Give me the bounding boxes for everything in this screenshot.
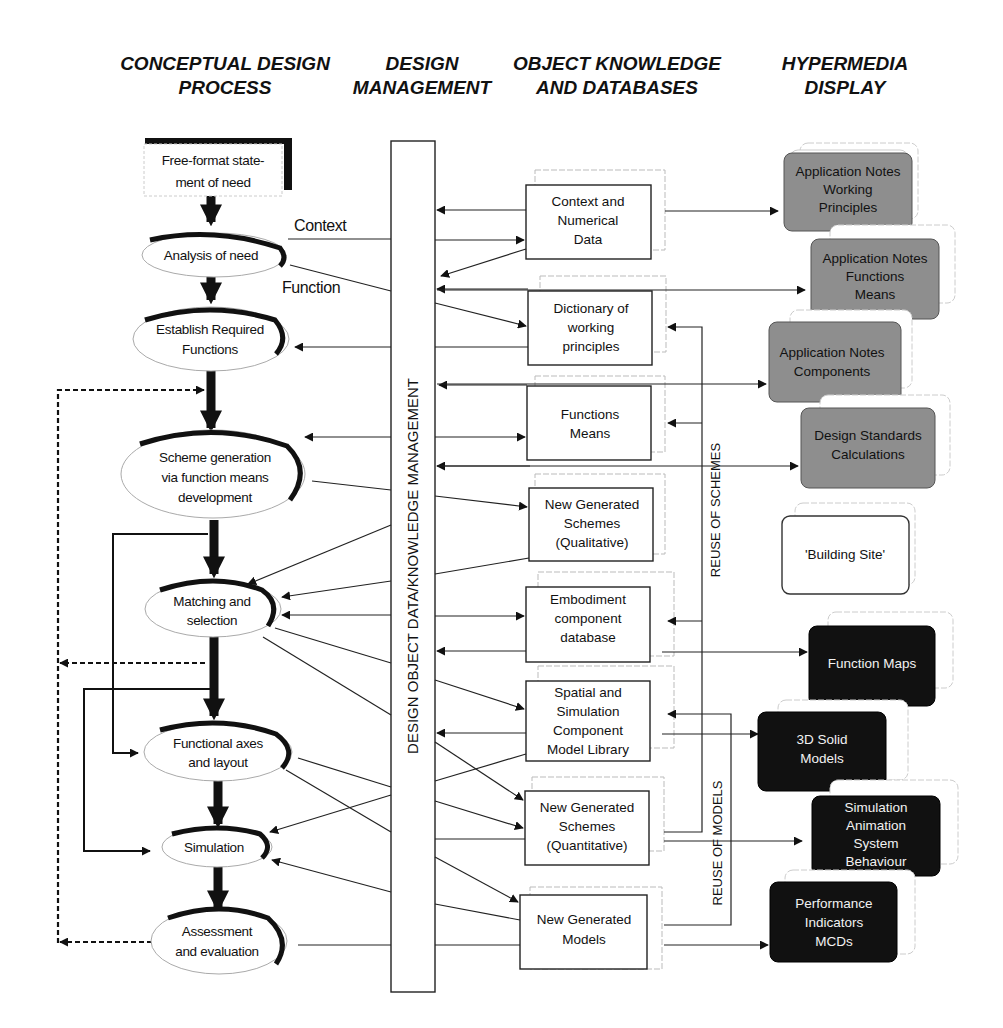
step-label-scheme-1: Scheme generation [159, 450, 271, 465]
step-label-analysis: Analysis of need [164, 248, 258, 263]
svg-text:Function Maps: Function Maps [828, 656, 917, 671]
process-step-matching: Matching and selection [145, 581, 281, 637]
step-label-assessment-1: Assessment [182, 924, 253, 939]
svg-text:Application Notes: Application Notes [779, 345, 884, 360]
svg-text:Simulation: Simulation [844, 800, 907, 815]
svg-text:Models: Models [562, 932, 606, 947]
db-new-schemes-quantitative: New Generated Schemes (Quantitative) [525, 777, 664, 865]
column-headers: CONCEPTUAL DESIGN PROCESS DESIGN MANAGEM… [120, 53, 908, 98]
svg-text:Dictionary of: Dictionary of [553, 301, 628, 316]
header-hypermedia-line2: DISPLAY [805, 77, 888, 98]
svg-text:Functions: Functions [561, 407, 620, 422]
svg-text:Means: Means [570, 426, 611, 441]
svg-text:(Quantitative): (Quantitative) [546, 838, 627, 853]
db-new-schemes-qualitative: New Generated Schemes (Qualitative) [529, 474, 665, 561]
header-conceptual-design-line1: CONCEPTUAL DESIGN [120, 53, 331, 74]
svg-text:Model Library: Model Library [547, 742, 629, 757]
step-label-establish-2: Functions [182, 342, 238, 357]
card-application-notes-components[interactable]: Application Notes Components [769, 310, 912, 402]
svg-text:Components: Components [794, 364, 871, 379]
step-label-simulation: Simulation [184, 840, 244, 855]
process-step-establish: Establish Required Functions [133, 307, 289, 371]
step-label-functional-2: and layout [188, 755, 248, 770]
svg-text:'Building Site': 'Building Site' [805, 547, 885, 562]
svg-text:3D Solid: 3D Solid [796, 732, 847, 747]
header-object-knowledge-line1: OBJECT KNOWLEDGE [513, 53, 722, 74]
svg-text:Numerical: Numerical [558, 213, 619, 228]
svg-text:principles: principles [562, 339, 619, 354]
svg-text:Context and: Context and [552, 194, 625, 209]
header-design-management-line1: DESIGN [386, 53, 460, 74]
svg-text:MCDs: MCDs [815, 934, 853, 949]
svg-text:Calculations: Calculations [831, 447, 905, 462]
db-functions-means: Functions Means [527, 376, 665, 460]
svg-text:New Generated: New Generated [545, 497, 640, 512]
card-simulation-animation[interactable]: Simulation Animation System Behaviour [812, 780, 958, 876]
edge-label-function: Function [282, 279, 340, 296]
svg-text:Performance: Performance [795, 896, 872, 911]
card-building-site[interactable]: 'Building Site' [782, 503, 915, 594]
svg-text:Embodiment: Embodiment [550, 592, 626, 607]
svg-text:Principles: Principles [819, 200, 878, 215]
db-embodiment-component: Embodiment component database [526, 572, 674, 662]
svg-text:Working: Working [823, 182, 872, 197]
svg-text:Component: Component [553, 723, 623, 738]
svg-text:Design Standards: Design Standards [814, 428, 922, 443]
step-label-establish-1: Establish Required [156, 322, 264, 337]
design-framework-diagram: CONCEPTUAL DESIGN PROCESS DESIGN MANAGEM… [0, 0, 1003, 1028]
svg-text:Indicators: Indicators [805, 915, 864, 930]
svg-text:Animation: Animation [846, 818, 906, 833]
edge-label-context: Context [294, 217, 347, 234]
svg-text:Behaviour: Behaviour [846, 854, 907, 869]
svg-text:Application Notes: Application Notes [822, 251, 927, 266]
header-design-management-line2: MANAGEMENT [353, 77, 493, 98]
step-label-assessment-2: and evaluation [175, 944, 259, 959]
step-label-functional-1: Functional axes [173, 736, 264, 751]
need-statement-line2: ment of need [175, 175, 250, 190]
svg-text:working: working [567, 320, 615, 335]
svg-text:System: System [853, 836, 898, 851]
process-step-assessment: Assessment and evaluation [151, 908, 287, 974]
svg-text:Models: Models [800, 751, 844, 766]
svg-text:Schemes: Schemes [564, 516, 621, 531]
svg-text:New Generated: New Generated [537, 912, 632, 927]
card-design-standards[interactable]: Design Standards Calculations [801, 395, 950, 488]
need-statement-box: Free-format state- ment of need [144, 138, 292, 196]
step-label-matching-1: Matching and [173, 594, 250, 609]
management-to-database-links [435, 210, 530, 945]
process-step-simulation: Simulation [162, 827, 272, 867]
svg-text:Schemes: Schemes [559, 819, 616, 834]
card-3d-solid-models[interactable]: 3D Solid Models [758, 700, 908, 791]
svg-text:Simulation: Simulation [556, 704, 619, 719]
header-conceptual-design-line2: PROCESS [179, 77, 272, 98]
need-statement-line1: Free-format state- [162, 153, 265, 168]
card-application-notes-working[interactable]: Application Notes Working Principles [784, 143, 918, 231]
svg-text:(Qualitative): (Qualitative) [556, 535, 629, 550]
management-bar-label: DESIGN OBJECT DATA/KNOWLEDGE MANAGEMENT [404, 378, 421, 754]
process-step-functional: Functional axes and layout [144, 723, 292, 781]
step-label-scheme-3: development [178, 490, 253, 505]
step-label-matching-2: selection [187, 613, 238, 628]
process-flow-arrows [211, 196, 218, 908]
card-function-maps[interactable]: Function Maps [809, 612, 953, 706]
hypermedia-cards: Application Notes Working Principles App… [758, 143, 958, 962]
svg-text:Spatial and: Spatial and [554, 685, 622, 700]
card-performance-indicators[interactable]: Performance Indicators MCDs [770, 870, 915, 962]
svg-text:Data: Data [574, 232, 603, 247]
db-dictionary-working-principles: Dictionary of working principles [528, 276, 666, 365]
db-spatial-simulation-library: Spatial and Simulation Component Model L… [526, 666, 674, 761]
process-step-analysis: Analysis of need [142, 233, 286, 277]
svg-text:Means: Means [855, 287, 896, 302]
db-new-generated-models: New Generated Models [520, 887, 662, 969]
svg-text:Functions: Functions [846, 269, 905, 284]
management-bar: DESIGN OBJECT DATA/KNOWLEDGE MANAGEMENT [391, 141, 435, 992]
svg-text:component: component [555, 611, 622, 626]
step-label-scheme-2: via function means [161, 470, 269, 485]
card-application-notes-functions[interactable]: Application Notes Functions Means [811, 225, 955, 319]
reuse-schemes-label: REUSE OF SCHEMES [708, 442, 723, 577]
svg-text:Application Notes: Application Notes [795, 164, 900, 179]
header-hypermedia-line1: HYPERMEDIA [782, 53, 909, 74]
svg-text:database: database [560, 630, 616, 645]
header-object-knowledge-line2: AND DATABASES [535, 77, 698, 98]
reuse-models-label: REUSE OF MODELS [710, 780, 725, 905]
